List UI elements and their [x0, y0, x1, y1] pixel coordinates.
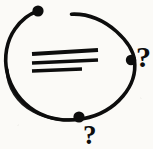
inner-line-2: [32, 60, 98, 63]
sketch-drawing: [0, 0, 153, 149]
inner-line-1: [32, 50, 98, 54]
sketch-canvas: ? ?: [0, 0, 153, 149]
question-mark-bottom: ?: [83, 122, 97, 149]
question-mark-right: ?: [136, 42, 151, 72]
circle-outline-arc: [6, 11, 135, 120]
right-dot: [126, 55, 136, 65]
top-left-dot: [32, 5, 43, 16]
inner-line-3: [32, 69, 82, 71]
